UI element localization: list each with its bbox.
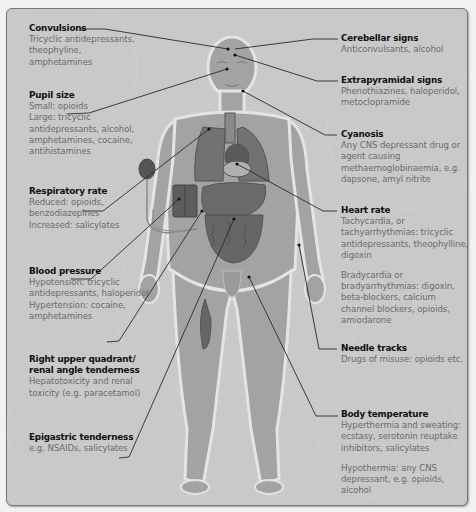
annotation-text: Any CNS depressant drug or [341, 140, 460, 151]
annotation-pupil-size: Pupil size Small: opioids Large: tricycl… [29, 90, 134, 157]
annotation-text: bradyarrhythmias: digoxin, [341, 281, 468, 292]
annotation-ruq-renal-tenderness: Right upper quadrant/ renal angle tender… [29, 354, 140, 399]
annotation-cyanosis: Cyanosis Any CNS depressant drug or agen… [341, 129, 460, 185]
annotation-text: Hepatotoxicity and renal [29, 376, 140, 387]
annotation-title: Convulsions [29, 23, 135, 34]
annotation-text: ecstasy, serotonin reuptake [341, 431, 461, 442]
annotation-text: Large: tricyclic [29, 112, 134, 123]
annotation-text: amphetamines [29, 57, 135, 68]
annotation-title: Heart rate [341, 205, 468, 216]
annotation-text: amphetamines, cocaine, [29, 135, 134, 146]
annotation-text: Small: opioids [29, 101, 134, 112]
annotation-text: dapsone, amyl nitrite [341, 174, 460, 185]
annotation-title: Epigastric tenderness [29, 432, 133, 443]
annotation-text: depressant, e.g. opioids, [341, 474, 461, 485]
annotation-epigastric-tenderness: Epigastric tenderness e.g. NSAIDs, salic… [29, 432, 133, 454]
annotation-needle-tracks: Needle tracks Drugs of misuse: opioids e… [341, 343, 463, 365]
annotation-title: Right upper quadrant/ [29, 354, 140, 365]
annotation-text: Hyperthermia and sweating: [341, 420, 461, 431]
annotation-text: antidepressants, alcohol, [29, 124, 134, 135]
annotation-title: Blood pressure [29, 266, 149, 277]
annotation-text: inhibitors, salicylates [341, 443, 461, 454]
annotation-text: e.g. NSAIDs, salicylates [29, 443, 133, 454]
annotation-text: Hypotension: tricyclic [29, 277, 149, 288]
annotation-text: digoxin [341, 250, 468, 261]
annotation-text: Hypertension: cocaine, [29, 300, 149, 311]
annotation-convulsions: Convulsions Tricyclic antidepressants, t… [29, 23, 135, 68]
annotation-text: antihistamines [29, 146, 134, 157]
annotation-extrapyramidal-signs: Extrapyramidal signs Phenothiazines, hal… [341, 75, 460, 109]
annotation-text: alcohol [341, 485, 461, 496]
annotation-text: Drugs of misuse: opioids etc. [341, 354, 463, 365]
annotation-text: antidepressants, haloperidol [29, 288, 149, 299]
annotation-text: theophyline, [29, 45, 135, 56]
annotation-text: Bradycardia or [341, 270, 468, 281]
annotation-blood-pressure: Blood pressure Hypotension: tricyclic an… [29, 266, 149, 322]
annotation-text: Reduced: opioids, [29, 197, 119, 208]
annotation-title: Needle tracks [341, 343, 463, 354]
annotation-text: amiodarone [341, 315, 468, 326]
annotation-text: antidepressants, theophylline, [341, 239, 468, 250]
annotation-text: methaemoglobinaemia, e.g. [341, 163, 460, 174]
diagram-panel: Convulsions Tricyclic antidepressants, t… [6, 8, 468, 506]
annotation-text: tachyarrhythmias: tricyclic [341, 227, 468, 238]
annotation-title: Body temperature [341, 409, 461, 420]
annotation-heart-rate: Heart rate Tachycardia, or tachyarrhythm… [341, 205, 468, 326]
annotation-body-temperature: Body temperature Hyperthermia and sweati… [341, 409, 461, 496]
annotation-respiratory-rate: Respiratory rate Reduced: opioids, benzo… [29, 186, 119, 231]
annotation-text: agent causing [341, 151, 460, 162]
annotation-title: renal angle tenderness [29, 365, 140, 376]
annotation-text: Hypothermia: any CNS [341, 463, 461, 474]
annotation-text: Tachycardia, or [341, 216, 468, 227]
annotation-title: Cyanosis [341, 129, 460, 140]
annotation-text: Phenothiazines, haloperidol, [341, 86, 460, 97]
annotation-title: Extrapyramidal signs [341, 75, 460, 86]
annotation-text: channel blockers, opioids, [341, 304, 468, 315]
annotation-text: Tricyclic antidepressants, [29, 34, 135, 45]
annotation-text: toxicity (e.g. paracetamol) [29, 388, 140, 399]
annotation-text: beta-blockers, calcium [341, 292, 468, 303]
annotation-text: Anticonvulsants, alcohol [341, 44, 443, 55]
annotation-text: benzodiazepines [29, 208, 119, 219]
annotation-title: Pupil size [29, 90, 134, 101]
annotation-text: metoclopramide [341, 97, 460, 108]
annotation-text: Increased: salicylates [29, 220, 119, 231]
annotation-text: amphetamines [29, 311, 149, 322]
annotation-title: Cerebellar signs [341, 33, 443, 44]
annotation-cerebellar-signs: Cerebellar signs Anticonvulsants, alcoho… [341, 33, 443, 55]
annotation-title: Respiratory rate [29, 186, 119, 197]
